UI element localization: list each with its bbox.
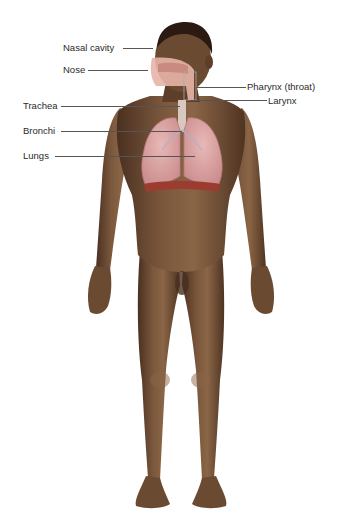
label-bronchi: Bronchi <box>23 125 55 136</box>
lungs-leader-line <box>55 156 195 157</box>
respiratory-system-diagram: Nasal cavity Nose Pharynx (throat) Laryn… <box>0 0 346 532</box>
human-body-illustration <box>0 0 346 532</box>
label-trachea: Trachea <box>23 100 58 111</box>
pharynx-leader-line <box>196 87 246 88</box>
ear <box>205 55 213 69</box>
larynx-leader-line <box>190 100 267 101</box>
label-pharynx: Pharynx (throat) <box>247 81 315 92</box>
nose-leader-line <box>88 70 148 71</box>
trachea-leader-line <box>61 106 180 107</box>
nasal-cavity-leader-line <box>123 48 153 49</box>
label-nose: Nose <box>63 64 85 75</box>
label-larynx: Larynx <box>268 95 297 106</box>
label-nasal-cavity: Nasal cavity <box>63 42 114 53</box>
bronchi-leader-line <box>61 131 182 132</box>
label-lungs: Lungs <box>23 150 49 161</box>
groin <box>175 271 189 295</box>
